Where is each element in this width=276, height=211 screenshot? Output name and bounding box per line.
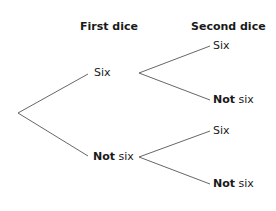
node-second-not-six-a: Not six bbox=[213, 93, 254, 106]
header-first-dice: First dice bbox=[80, 20, 138, 33]
node-first-six: Six bbox=[94, 66, 111, 79]
branch-notsix-six bbox=[139, 131, 210, 157]
node-second-not-six-b: Not six bbox=[213, 177, 254, 190]
branch-notsix-not-six bbox=[139, 157, 210, 184]
branch-six-not-six bbox=[139, 73, 210, 100]
branch-root-not-six bbox=[18, 113, 88, 156]
node-second-six-a: Six bbox=[213, 39, 230, 52]
branch-six-six bbox=[139, 46, 210, 73]
node-second-six-b: Six bbox=[213, 124, 230, 137]
header-second-dice: Second dice bbox=[191, 20, 266, 33]
node-first-not-six: Not six bbox=[93, 150, 134, 163]
branch-root-six bbox=[18, 74, 88, 113]
